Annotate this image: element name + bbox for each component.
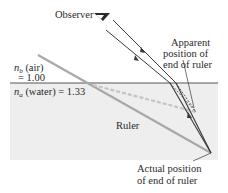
na-medium: (water) = 1.33 xyxy=(23,86,85,97)
ruler-label: Ruler xyxy=(116,120,139,131)
ray-2-air xyxy=(106,30,170,83)
actual-position-label-line2: of end of ruler xyxy=(137,175,197,186)
apparent-position-label-line3: end of ruler xyxy=(163,59,212,70)
observer-label: Observer xyxy=(55,9,93,20)
apparent-position-label-line2: position of xyxy=(163,48,208,59)
apparent-position-label-line1: Apparent xyxy=(171,37,210,48)
nb-value: = 1.00 xyxy=(18,72,45,83)
na-label: na (water) = 1.33 xyxy=(14,86,85,101)
observer-eye-icon xyxy=(94,13,110,21)
actual-position-label-line1: Actual position xyxy=(137,163,201,174)
